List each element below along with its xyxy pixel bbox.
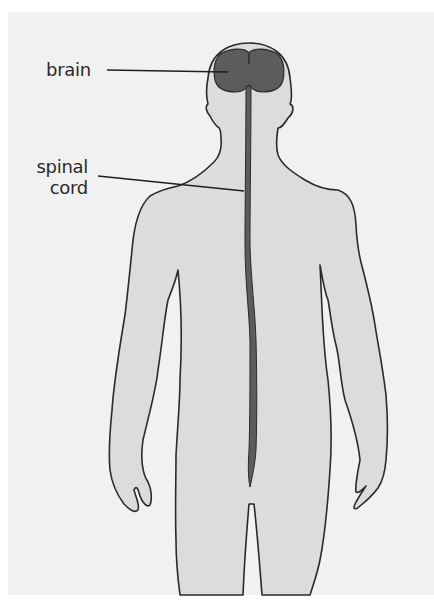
brain-label: brain xyxy=(46,59,91,80)
spinal-cord-label: spinal cord xyxy=(28,156,88,198)
spinal-cord-label-line1: spinal xyxy=(28,156,88,177)
body-diagram xyxy=(0,0,434,601)
spinal-cord-label-line2: cord xyxy=(28,177,88,198)
